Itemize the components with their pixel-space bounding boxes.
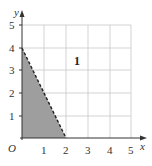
x-tick-5: 5 — [128, 144, 134, 156]
y-tick-2: 2 — [9, 87, 15, 99]
y-axis-arrow-icon — [20, 10, 25, 17]
x-tick-2: 2 — [63, 144, 69, 156]
y-tick-5: 5 — [9, 19, 15, 31]
region-label: 1 — [74, 54, 80, 68]
x-tick-4: 4 — [107, 144, 113, 156]
x-tick-3: 3 — [85, 144, 91, 156]
x-tick-1: 1 — [41, 144, 47, 156]
origin-label: O — [8, 142, 16, 154]
y-axis-label: y — [13, 6, 19, 18]
y-tick-1: 1 — [9, 110, 15, 122]
y-tick-4: 4 — [9, 42, 15, 54]
x-axis-label: x — [139, 140, 145, 152]
graph: y x O 5 4 3 2 1 1 2 3 4 5 1 — [0, 0, 152, 166]
y-tick-3: 3 — [9, 64, 15, 76]
